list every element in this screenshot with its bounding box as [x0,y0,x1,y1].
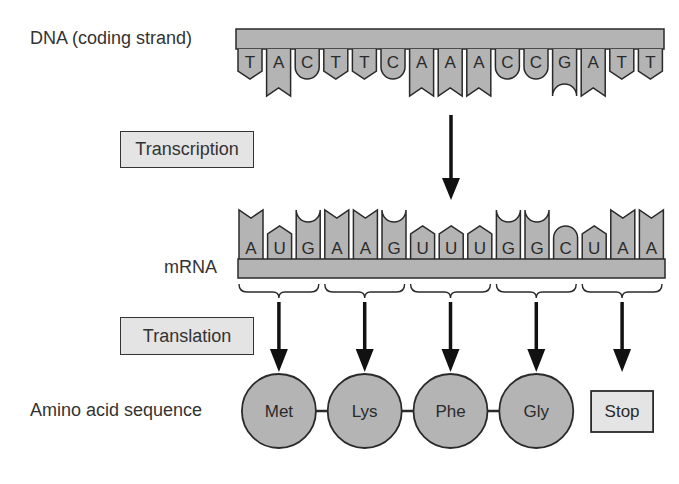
mrna-base-letter: A [646,239,658,258]
dna-base-letter: A [416,53,428,72]
mrna-base-letter: U [588,239,600,258]
arrow-head-icon [442,349,460,372]
dna-base-letter: C [301,53,313,72]
dna-base-letter: A [445,53,457,72]
mrna-base-letter: U [273,239,285,258]
dna-base-letter: A [588,53,600,72]
dna-base-letter: A [273,53,285,72]
stop-label: Stop [605,402,640,421]
arrow-head-icon [613,349,631,372]
mrna-base-letter: A [617,239,629,258]
mrna-backbone [238,259,665,278]
codon-bracket [411,284,491,298]
dna-base-letter: A [473,53,485,72]
mrna-base-letter: G [302,239,315,258]
dna-base-letter: G [558,53,571,72]
amino-acid-label: Gly [524,402,550,421]
amino-acid-chain: MetLysPheGlyStop [242,374,653,448]
gene-expression-diagram: TACTTCAAACCGATT AUGAAGUUUGGCUAA MetLysPh… [0,0,679,484]
dna-base-letter: T [331,53,341,72]
mrna-base-letter: G [502,239,515,258]
arrow-head-icon [527,349,545,372]
dna-backbone [236,29,664,49]
codon-brackets [239,284,662,372]
codon-bracket [325,284,405,298]
transcription-arrow [442,115,460,200]
dna-base-letter: T [359,53,369,72]
dna-base-letter: C [530,53,542,72]
dna-strand: TACTTCAAACCGATT [236,29,664,96]
mrna-base-letter: C [559,239,571,258]
codon-bracket [582,284,662,298]
mrna-base-letter: A [360,239,372,258]
codon-bracket [239,284,319,298]
mrna-base-letter: G [387,239,400,258]
amino-acid-label: Lys [352,402,378,421]
mrna-strand: AUGAAGUUUGGCUAA [238,210,665,278]
mrna-base-letter: A [245,239,257,258]
dna-base-letter: T [245,53,255,72]
dna-base-letter: C [387,53,399,72]
mrna-base-letter: U [416,239,428,258]
codon-bracket [496,284,576,298]
arrow-head-icon [356,349,374,372]
mrna-base-letter: G [530,239,543,258]
amino-acid-label: Met [265,402,294,421]
mrna-base-letter: A [331,239,343,258]
arrow-head-icon [270,349,288,372]
dna-base-letter: T [617,53,627,72]
mrna-base-letter: U [445,239,457,258]
mrna-base-letter: U [474,239,486,258]
dna-base-letter: C [501,53,513,72]
dna-base-letter: T [645,53,655,72]
amino-acid-label: Phe [435,402,465,421]
